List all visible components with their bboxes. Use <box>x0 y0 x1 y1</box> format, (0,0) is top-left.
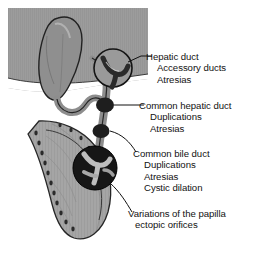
label-item: Atresias <box>139 123 231 134</box>
label-heading: Hepatic duct <box>146 51 226 62</box>
label-item: Atresias <box>133 171 210 182</box>
label-heading: Common hepatic duct <box>139 100 231 111</box>
biliary-anatomy-figure: Hepatic duct Accessory ducts Atresias Co… <box>0 0 264 253</box>
label-common-bile-duct: Common bile duct Duplications Atresias C… <box>133 148 210 194</box>
label-item: Duplications <box>133 159 210 170</box>
label-item: Atresias <box>146 74 226 85</box>
label-common-hepatic-duct: Common hepatic duct Duplications Atresia… <box>139 100 231 134</box>
caption-clipped-strip <box>0 244 264 253</box>
label-item: Cystic dilation <box>133 182 210 193</box>
label-hepatic-duct: Hepatic duct Accessory ducts Atresias <box>146 51 226 85</box>
label-item: ectopic orifices <box>128 219 226 230</box>
common-hepatic-node <box>96 98 114 113</box>
label-item: Accessory ducts <box>146 62 226 73</box>
label-heading: Variations of the papilla <box>128 208 226 219</box>
magnifier-hepatic <box>94 49 132 87</box>
common-bile-node <box>93 124 110 138</box>
label-papilla-variations: Variations of the papilla ectopic orific… <box>128 208 226 231</box>
label-heading: Common bile duct <box>133 148 210 159</box>
cystic-duct <box>57 98 102 113</box>
label-item: Duplications <box>139 111 231 122</box>
